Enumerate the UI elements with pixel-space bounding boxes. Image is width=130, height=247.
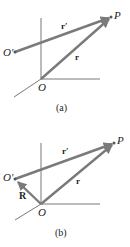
point-p — [113, 142, 116, 145]
point-o-prime — [14, 178, 17, 181]
axes-b — [15, 143, 100, 220]
label-p: P — [116, 134, 124, 146]
figure-a: P O′ r′ r O (a) — [3, 9, 121, 114]
label-p: P — [113, 9, 121, 21]
label-r-prime: r′ — [62, 146, 69, 156]
vector-r — [41, 19, 109, 79]
label-R: R — [19, 190, 27, 201]
label-o-prime: O′ — [3, 171, 14, 183]
axes-a — [14, 18, 100, 97]
label-o: O — [38, 206, 46, 218]
vector-r — [41, 145, 112, 204]
point-p — [110, 16, 113, 19]
caption-a: (a) — [56, 102, 67, 114]
label-r: r — [76, 176, 80, 186]
label-r: r — [75, 52, 79, 62]
point-o-prime — [14, 51, 17, 54]
label-o: O — [38, 81, 46, 93]
caption-b: (b) — [55, 227, 67, 239]
figure-b: P O′ r′ r R O (b) — [3, 134, 124, 239]
label-r-prime: r′ — [61, 21, 68, 31]
label-o-prime: O′ — [3, 46, 14, 58]
diagram-canvas: P O′ r′ r O (a) P O′ r′ r R O (b) — [0, 0, 130, 247]
